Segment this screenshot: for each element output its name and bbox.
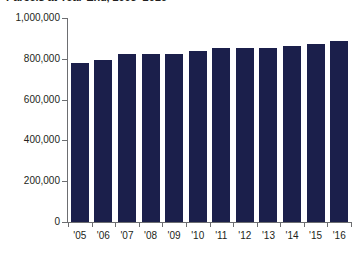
plot-area xyxy=(68,18,351,222)
x-axis-tick xyxy=(351,222,352,227)
y-axis-tick-label: 400,000 xyxy=(2,135,60,145)
bar xyxy=(118,54,136,222)
bar xyxy=(283,46,301,222)
bar xyxy=(94,60,112,222)
y-axis-tick-label: 1,000,000 xyxy=(2,13,60,23)
x-axis-tick xyxy=(304,222,305,227)
bar xyxy=(259,48,277,222)
bar xyxy=(236,48,254,222)
x-axis-tick xyxy=(115,222,116,227)
y-axis-tick-label: 600,000 xyxy=(2,95,60,105)
bar xyxy=(189,51,207,222)
x-axis-tick xyxy=(186,222,187,227)
x-axis-tick xyxy=(139,222,140,227)
bar xyxy=(212,48,230,222)
bar xyxy=(142,54,160,222)
y-axis-tick-labels: 1,000,000800,000600,000400,000200,0000 xyxy=(0,0,60,256)
x-axis-tick xyxy=(257,222,258,227)
x-axis-tick xyxy=(327,222,328,227)
bar-chart-figure: Parcels at Year-End, 2005–2016 1,000,000… xyxy=(0,0,355,256)
x-axis-tick xyxy=(210,222,211,227)
bar xyxy=(165,54,183,222)
bar xyxy=(307,44,325,223)
x-axis-tick-label: '16 xyxy=(325,230,353,241)
x-axis-tick xyxy=(68,222,69,227)
x-axis-tick xyxy=(162,222,163,227)
x-axis-tick xyxy=(280,222,281,227)
y-axis-tick-label: 0 xyxy=(2,217,60,227)
bar xyxy=(71,63,89,222)
y-axis-tick-label: 200,000 xyxy=(2,176,60,186)
x-axis-line xyxy=(67,222,351,223)
bar xyxy=(330,41,348,222)
x-axis-tick xyxy=(92,222,93,227)
y-axis-tick-label: 800,000 xyxy=(2,54,60,64)
x-axis-tick xyxy=(233,222,234,227)
